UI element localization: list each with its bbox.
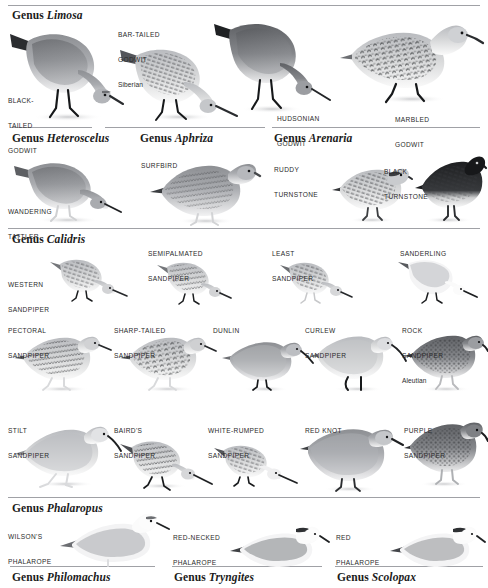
rule-phalaropus: [8, 497, 480, 498]
label-line: SANDPIPER: [305, 352, 346, 360]
label-wandering-tattler: WANDERING TATTLER: [8, 192, 52, 258]
label-line: SANDPIPER: [114, 352, 166, 360]
label-red-phalarope: RED PHALAROPE: [336, 518, 379, 584]
label-wilsons-phalarope: WILSON'S PHALAROPE: [8, 517, 51, 583]
label-semipalmated-sandpiper: SEMIPALMATED SANDPIPER: [148, 234, 203, 300]
label-pectoral-sandpiper: PECTORAL SANDPIPER: [8, 311, 49, 377]
genus-name: Limosa: [47, 9, 83, 21]
label-line: SANDPIPER: [404, 452, 445, 460]
label-line: SURFBIRD: [141, 162, 178, 170]
label-line: BAIRD'S: [114, 427, 155, 435]
label-line: BLACK: [384, 168, 428, 176]
genus-word: Genus: [140, 132, 172, 144]
label-red-necked-phalarope: RED-NECKED PHALAROPE: [173, 518, 220, 584]
illustration-red-phalarope: [388, 525, 486, 571]
label-line: LEAST: [272, 250, 313, 258]
label-line: GODWIT: [118, 56, 160, 64]
rule-top: [8, 5, 480, 6]
label-sharp-tailed-sandpiper: SHARP-TAILED SANDPIPER: [114, 311, 166, 377]
label-sanderling: SANDERLING: [400, 234, 446, 275]
label-line: SHARP-TAILED: [114, 327, 166, 335]
rule-calidris: [8, 228, 480, 229]
rule-aphriza: [105, 127, 265, 128]
label-line: TURNSTONE: [274, 191, 318, 199]
label-line: WHITE-RUMPED: [208, 427, 264, 435]
label-line: MARBLED: [395, 116, 429, 124]
illustration-western-sandpiper: [48, 252, 128, 302]
label-line: TAILED: [8, 122, 37, 130]
label-dunlin: DUNLIN: [213, 311, 240, 352]
label-line: CURLEW: [305, 327, 346, 335]
label-line: SANDPIPER: [402, 352, 443, 360]
label-line: SANDPIPER: [208, 452, 264, 460]
label-line: RED-NECKED: [173, 534, 220, 542]
label-subtext: Aleutian: [402, 377, 443, 385]
label-line: WANDERING: [8, 208, 52, 216]
label-line: TURNSTONE: [384, 193, 428, 201]
label-purple-sandpiper: PURPLE SANDPIPER: [404, 411, 445, 477]
label-line: TATTLER: [8, 233, 52, 241]
label-line: SANDERLING: [400, 250, 446, 258]
label-line: SANDPIPER: [114, 452, 155, 460]
label-line: BAR-TAILED: [118, 31, 160, 39]
label-black-turnstone: BLACK TURNSTONE: [384, 152, 428, 218]
genus-word: Genus: [12, 9, 44, 21]
label-line: SANDPIPER: [8, 352, 49, 360]
label-line: RED: [336, 534, 379, 542]
label-line: RUDDY: [274, 166, 318, 174]
label-line: PURPLE: [404, 427, 445, 435]
label-line: PHALAROPE: [8, 558, 51, 566]
genus-heading-limosa: Genus Limosa: [12, 9, 83, 21]
label-line: SANDPIPER: [8, 452, 49, 460]
label-red-knot: RED KNOT: [305, 411, 342, 452]
genus-name: Aphriza: [175, 132, 213, 144]
label-rock-sandpiper: ROCK SANDPIPER Aleutian: [402, 311, 443, 401]
label-line: PHALAROPE: [173, 559, 220, 567]
label-bairds-sandpiper: BAIRD'S SANDPIPER: [114, 411, 155, 477]
genus-name: Heteroscelus: [47, 132, 110, 144]
label-stilt-sandpiper: STILT SANDPIPER: [8, 411, 49, 477]
label-line: SEMIPALMATED: [148, 250, 203, 258]
label-bar-tailed-godwit: BAR-TAILED GODWIT Siberian: [118, 15, 160, 105]
illustration-red-necked-phalarope: [228, 525, 330, 571]
label-surfbird: SURFBIRD: [141, 146, 178, 187]
label-line: SANDPIPER: [272, 275, 313, 283]
label-line: GODWIT: [277, 140, 320, 148]
label-line: WILSON'S: [8, 533, 51, 541]
label-line: STILT: [8, 427, 49, 435]
label-curlew-sandpiper: CURLEW SANDPIPER: [305, 311, 346, 377]
label-line: DUNLIN: [213, 327, 240, 335]
illustration-marbled-godwit: [338, 8, 484, 104]
label-subtext: Siberian: [118, 81, 160, 89]
label-line: HUDSONIAN: [277, 115, 320, 123]
label-white-rumped-sandpiper: WHITE-RUMPED SANDPIPER: [208, 411, 264, 477]
genus-name: Calidris: [47, 233, 86, 245]
genus-name: Philomachus: [47, 571, 111, 583]
label-ruddy-turnstone: RUDDY TURNSTONE: [274, 150, 318, 216]
label-line: BLACK-: [8, 97, 37, 105]
label-line: PHALAROPE: [336, 559, 379, 567]
label-line: SANDPIPER: [148, 275, 203, 283]
illustration-wilsons-phalarope: [58, 504, 170, 566]
label-line: PECTORAL: [8, 327, 49, 335]
genus-heading-aphriza: Genus Aphriza: [140, 132, 213, 144]
label-line: ROCK: [402, 327, 443, 335]
genus-word: Genus: [12, 502, 44, 514]
label-line: GODWIT: [395, 141, 429, 149]
label-line: WESTERN: [8, 281, 49, 289]
label-least-sandpiper: LEAST SANDPIPER: [272, 234, 313, 300]
label-line: RED KNOT: [305, 427, 342, 435]
